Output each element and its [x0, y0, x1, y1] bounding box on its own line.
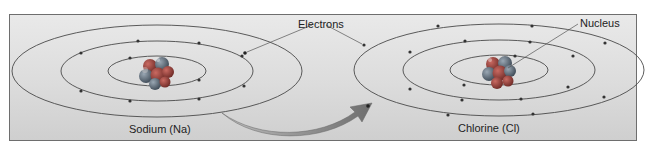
chlorine-nucleus [482, 56, 516, 89]
electrons-label: Electrons [298, 18, 344, 30]
sodium-atom [12, 25, 302, 117]
nucleus-label: Nucleus [580, 17, 620, 29]
leader-lines [247, 24, 578, 68]
chlorine-label: Chlorine (Cl) [458, 122, 520, 134]
sodium-label: Sodium (Na) [129, 123, 191, 135]
nucleus-leader [508, 24, 578, 68]
chlorine-atom [354, 24, 644, 117]
sodium-nucleus [139, 57, 174, 90]
